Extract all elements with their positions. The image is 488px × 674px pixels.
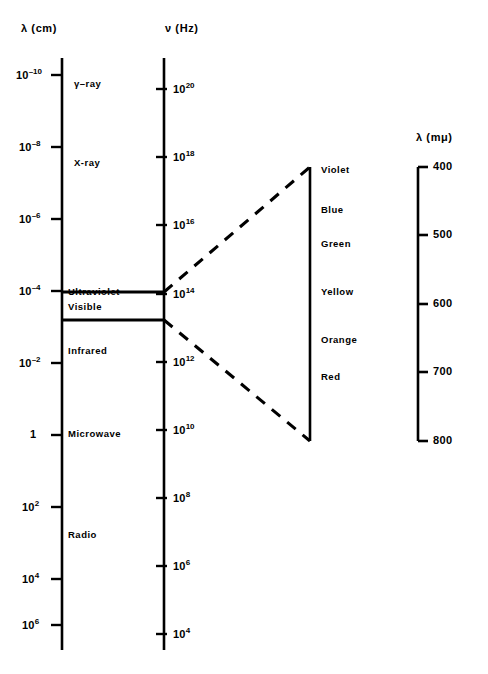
band-label-ultraviolet: Ultraviolet — [68, 286, 120, 297]
visible-wavelength-label-600: 600 — [433, 297, 453, 309]
wavelength-label-1e-6: 10–6 — [19, 211, 41, 225]
wavelength-label-1e-10: 10–10 — [16, 67, 42, 81]
frequency-label-1e16: 1016 — [173, 217, 195, 231]
color-label-red: Red — [321, 371, 340, 382]
color-label-yellow: Yellow — [321, 286, 354, 297]
wavelength-axis-header: λ (cm) — [21, 22, 57, 34]
wavelength-label-1e-4: 10–4 — [19, 283, 41, 297]
visible-wavelength-label-500: 500 — [433, 228, 453, 240]
visible-wavelength-label-700: 700 — [433, 365, 453, 377]
visible-wavelength-axis — [418, 167, 428, 441]
band-label-gamma-ray: γ–ray — [74, 78, 101, 89]
wavelength-label-1e4: 104 — [22, 571, 39, 585]
color-label-blue: Blue — [321, 204, 344, 215]
figure-canvas: λ (cm) ν (Hz) λ (mμ) 10–10 10–8 10–6 10–… — [0, 0, 488, 674]
wavelength-label-1: 1 — [30, 428, 36, 440]
frequency-label-1e6: 106 — [173, 558, 190, 572]
frequency-label-1e4: 104 — [173, 626, 190, 640]
band-label-microwave: Microwave — [68, 428, 121, 439]
frequency-label-1e20: 1020 — [173, 81, 195, 95]
visible-wavelength-label-800: 800 — [433, 434, 453, 446]
frequency-label-1e10: 1010 — [173, 422, 195, 436]
expansion-leader-lines — [164, 167, 310, 441]
band-label-visible: Visible — [68, 301, 102, 312]
wavelength-axis — [51, 58, 62, 650]
band-label-x-ray: X-ray — [74, 157, 100, 168]
wavelength-label-1e-2: 10–2 — [19, 355, 41, 369]
band-label-radio: Radio — [68, 529, 97, 540]
frequency-axis-header: ν (Hz) — [165, 22, 199, 34]
band-label-infrared: Infrared — [68, 345, 107, 356]
frequency-label-1e12: 1012 — [173, 354, 195, 368]
frequency-label-1e8: 108 — [173, 490, 190, 504]
wavelength-label-1e2: 102 — [22, 499, 39, 513]
diagram-vector-layer — [0, 0, 488, 674]
visible-wavelength-axis-header: λ (mμ) — [416, 131, 453, 143]
wavelength-label-1e6: 106 — [22, 617, 39, 631]
color-label-orange: Orange — [321, 334, 357, 345]
color-label-violet: Violet — [321, 164, 350, 175]
wavelength-label-1e-8: 10–8 — [19, 139, 41, 153]
visible-wavelength-label-400: 400 — [433, 160, 453, 172]
frequency-label-1e18: 1018 — [173, 149, 195, 163]
frequency-label-1e14: 1014 — [173, 286, 195, 300]
frequency-axis — [156, 58, 167, 650]
color-label-green: Green — [321, 238, 351, 249]
